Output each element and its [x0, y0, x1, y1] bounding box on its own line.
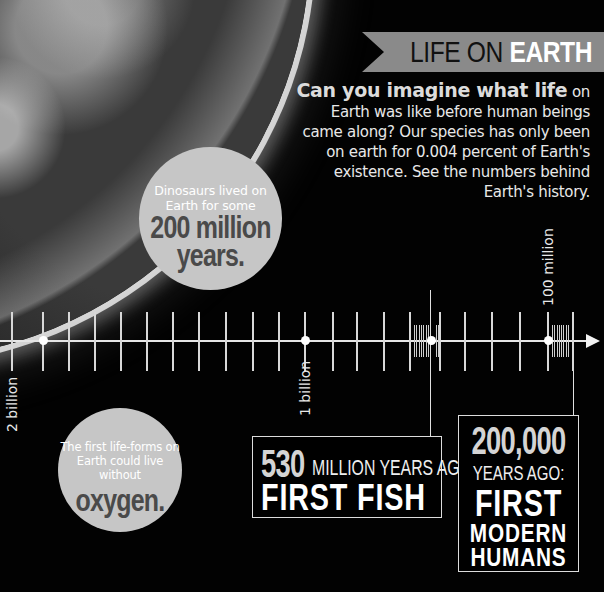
timeline-fine-tick [557, 325, 558, 357]
label-1-billion: 1 billion [297, 361, 313, 416]
fish-connector-line [430, 290, 431, 437]
timeline-tick [225, 312, 227, 371]
humans-title-3: HUMANS [455, 544, 582, 570]
timeline-fine-tick [421, 325, 422, 357]
timeline-fine-tick [566, 325, 567, 357]
intro-lead: Can you imagine what life [296, 79, 567, 101]
timeline-tick [120, 312, 122, 371]
title-light: LIFE ON [410, 35, 503, 68]
timeline-fine-tick [438, 325, 439, 357]
timeline-tick [94, 312, 96, 371]
humans-title-1: FIRST [455, 486, 582, 522]
timeline-dot [39, 336, 48, 345]
timeline-fine-tick [561, 325, 562, 357]
label-100-million: 100 million [540, 228, 556, 306]
timeline-axis [0, 340, 590, 342]
timeline-tick [409, 312, 411, 371]
arrow-right-icon [586, 334, 600, 348]
timeline-tick [491, 312, 493, 371]
timeline-dot [301, 336, 310, 345]
timeline-dot [427, 336, 436, 345]
first-humans-box: 200,000 YEARS AGO: FIRST MODERN HUMANS [458, 415, 579, 572]
timeline-tick [252, 312, 254, 371]
label-2-billion: 2 billion [4, 377, 20, 432]
humans-number: 200,000 [461, 420, 575, 463]
infographic: LIFE ONEARTH Can you imagine what life o… [0, 0, 604, 592]
timeline-fine-tick [416, 325, 417, 357]
dinosaur-fact-circle: Dinosaurs lived on Earth for some 200 mi… [139, 147, 282, 290]
dinosaur-fact-unit: years. [139, 239, 282, 271]
timeline-fine-tick [554, 325, 555, 357]
timeline-tick [68, 312, 70, 371]
timeline-dot [544, 336, 553, 345]
timeline-tick [278, 312, 280, 371]
timeline-fine-tick [568, 325, 569, 357]
humans-subtitle: YEARS AGO: [459, 462, 578, 484]
oxygen-fact-word: oxygen. [56, 484, 184, 516]
title-bold: EARTH [509, 35, 592, 68]
timeline-tick [383, 312, 385, 371]
intro-paragraph: Can you imagine what life on Earth was l… [290, 80, 590, 202]
timeline-tick [198, 312, 200, 371]
timeline-tick [464, 312, 466, 371]
timeline-fine-tick [559, 325, 560, 357]
timeline-tick [332, 312, 334, 371]
timeline-tick [146, 312, 148, 371]
timeline-tick [572, 312, 574, 371]
timeline-fine-tick [423, 325, 424, 357]
oxygen-fact-text: The first life-forms on Earth could live… [58, 440, 182, 482]
oxygen-fact-circle: The first life-forms on Earth could live… [58, 408, 182, 532]
timeline-tick [356, 312, 358, 371]
timeline-fine-tick [419, 325, 420, 357]
timeline-tick [519, 312, 521, 371]
timeline-fine-tick [563, 325, 564, 357]
timeline-tick [439, 312, 441, 371]
timeline-tick [172, 312, 174, 371]
timeline-tick [11, 312, 13, 371]
timeline-fine-tick [414, 325, 415, 357]
first-fish-box: 530 MILLION YEARS AGO: FIRST FISH [252, 436, 442, 518]
timeline-fine-tick [436, 325, 437, 357]
title-banner: LIFE ONEARTH [362, 32, 604, 72]
fish-title: FIRST FISH [261, 477, 426, 519]
